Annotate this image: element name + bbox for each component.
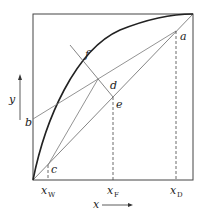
label-f: f <box>84 48 91 61</box>
stripping-operating-line <box>48 79 98 165</box>
tick-xf: x F <box>107 184 119 199</box>
x-arrow-head-icon <box>128 203 133 207</box>
label-c: c <box>51 163 57 176</box>
y-arrow-head-icon <box>18 74 22 80</box>
label-a: a <box>180 30 187 43</box>
mccabe-thiele-diagram: a b c d e f x W x F x D x y <box>0 0 207 211</box>
svg-text:x: x <box>107 184 114 197</box>
tick-xd: x D <box>170 184 183 199</box>
x-axis-label: x <box>93 198 100 211</box>
q-line <box>70 45 113 97</box>
svg-text:D: D <box>177 191 183 199</box>
svg-text:W: W <box>48 191 56 199</box>
svg-text:x: x <box>170 184 177 197</box>
y-axis-label: y <box>8 93 16 106</box>
label-e: e <box>116 98 123 111</box>
svg-text:F: F <box>114 191 119 199</box>
label-d: d <box>110 79 117 92</box>
label-b: b <box>25 116 32 129</box>
tick-xw: x W <box>41 184 56 199</box>
svg-text:x: x <box>41 184 48 197</box>
